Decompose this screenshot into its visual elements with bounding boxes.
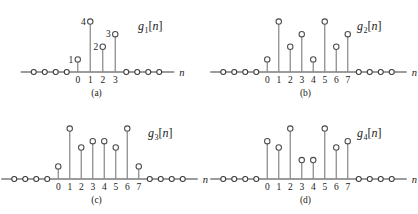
tick-label-5: 5 xyxy=(113,182,118,192)
tick-label-7: 7 xyxy=(345,75,350,85)
tick-label-3: 3 xyxy=(90,182,95,192)
value-label-g1-0: 1 xyxy=(69,55,74,65)
sample-marker-g4-1 xyxy=(276,145,281,150)
panel-plot-g2: n01234567g2[n](b) xyxy=(209,0,418,107)
series-label-g3: g3[n] xyxy=(148,126,173,142)
panel-c: n01234567g3[n](c) xyxy=(0,107,209,214)
tick-label-5: 5 xyxy=(322,75,327,85)
series-label-bracket-close: ] xyxy=(378,126,382,140)
tick-label-0: 0 xyxy=(265,182,270,192)
zero-sample-marker xyxy=(42,70,47,75)
zero-sample-marker xyxy=(378,70,383,75)
zero-sample-marker xyxy=(146,70,151,75)
zero-sample-marker xyxy=(232,177,237,182)
sample-marker-g2-4 xyxy=(311,57,316,62)
sample-marker-g4-5 xyxy=(322,126,327,131)
panel-caption-g2: (b) xyxy=(300,88,311,99)
sample-marker-g3-4 xyxy=(102,138,107,143)
sample-marker-g4-6 xyxy=(334,145,339,150)
sample-marker-g2-7 xyxy=(345,31,350,36)
panel-caption-g1: (a) xyxy=(91,88,102,99)
tick-label-6: 6 xyxy=(125,182,130,192)
zero-sample-marker xyxy=(221,70,226,75)
zero-sample-marker xyxy=(45,177,50,182)
panel-plot-g1: n01142233g1[n](a) xyxy=(0,0,209,107)
value-label-g1-3: 3 xyxy=(106,29,111,39)
panel-plot-g4: n01234567g4[n](d) xyxy=(209,107,418,214)
tick-label-4: 4 xyxy=(311,75,316,85)
tick-label-7: 7 xyxy=(345,182,350,192)
tick-label-1: 1 xyxy=(88,75,93,85)
series-label-bracket-close: ] xyxy=(169,126,173,140)
stem-plot-figure: n01142233g1[n](a) n01234567g2[n](b) n012… xyxy=(0,0,418,214)
tick-label-5: 5 xyxy=(322,182,327,192)
series-label-bracket-close: ] xyxy=(378,19,382,33)
sample-marker-g2-5 xyxy=(322,19,327,24)
series-label-base: g xyxy=(148,126,154,140)
tick-label-6: 6 xyxy=(334,75,339,85)
zero-sample-marker xyxy=(367,70,372,75)
sample-marker-g3-7 xyxy=(136,164,141,169)
sample-marker-g1-1 xyxy=(88,19,93,24)
zero-sample-marker xyxy=(378,177,383,182)
tick-label-2: 2 xyxy=(79,182,84,192)
axis-label-n: n xyxy=(412,174,417,185)
series-label-base: g xyxy=(138,19,144,33)
tick-label-2: 2 xyxy=(100,75,105,85)
sample-marker-g2-2 xyxy=(288,44,293,49)
zero-sample-marker xyxy=(389,70,394,75)
sample-marker-g2-3 xyxy=(299,31,304,36)
tick-label-0: 0 xyxy=(265,75,270,85)
panel-a: n01142233g1[n](a) xyxy=(0,0,209,107)
zero-sample-marker xyxy=(389,177,394,182)
sample-marker-g1-3 xyxy=(113,31,118,36)
zero-sample-marker xyxy=(23,177,28,182)
zero-sample-marker xyxy=(64,70,69,75)
value-label-g1-1: 4 xyxy=(81,17,86,27)
zero-sample-marker xyxy=(169,177,174,182)
sample-marker-g2-0 xyxy=(265,57,270,62)
value-label-g1-2: 2 xyxy=(94,42,99,52)
zero-sample-marker xyxy=(158,177,163,182)
zero-sample-marker xyxy=(147,177,152,182)
zero-sample-marker xyxy=(157,70,162,75)
zero-sample-marker xyxy=(254,70,259,75)
axis-label-n: n xyxy=(179,67,184,78)
sample-marker-g3-0 xyxy=(56,164,61,169)
zero-sample-marker xyxy=(356,70,361,75)
axis-label-n: n xyxy=(412,67,417,78)
sample-marker-g3-6 xyxy=(125,126,130,131)
tick-label-0: 0 xyxy=(75,75,80,85)
panel-b: n01234567g2[n](b) xyxy=(209,0,418,107)
tick-label-3: 3 xyxy=(113,75,118,85)
axis-label-n: n xyxy=(203,174,208,185)
tick-label-4: 4 xyxy=(102,182,107,192)
sample-marker-g3-1 xyxy=(67,126,72,131)
zero-sample-marker xyxy=(31,70,36,75)
sample-marker-g4-7 xyxy=(345,138,350,143)
tick-label-0: 0 xyxy=(56,182,61,192)
sample-marker-g4-2 xyxy=(288,126,293,131)
series-label-g2: g2[n] xyxy=(357,19,382,35)
panel-plot-g3: n01234567g3[n](c) xyxy=(0,107,209,214)
zero-sample-marker xyxy=(12,177,17,182)
tick-label-3: 3 xyxy=(299,182,304,192)
zero-sample-marker xyxy=(124,70,129,75)
sample-marker-g4-3 xyxy=(299,157,304,162)
sample-marker-g1-0 xyxy=(75,57,80,62)
series-label-g4: g4[n] xyxy=(357,126,382,142)
zero-sample-marker xyxy=(221,177,226,182)
sample-marker-g2-6 xyxy=(334,44,339,49)
tick-label-1: 1 xyxy=(276,75,281,85)
tick-label-4: 4 xyxy=(311,182,316,192)
sample-marker-g3-3 xyxy=(90,138,95,143)
zero-sample-marker xyxy=(356,177,361,182)
panel-caption-g4: (d) xyxy=(300,195,311,206)
zero-sample-marker xyxy=(243,177,248,182)
sample-marker-g2-1 xyxy=(276,19,281,24)
series-label-bracket-close: ] xyxy=(159,19,163,33)
sample-marker-g4-4 xyxy=(311,157,316,162)
tick-label-6: 6 xyxy=(334,182,339,192)
sample-marker-g3-5 xyxy=(113,145,118,150)
zero-sample-marker xyxy=(180,177,185,182)
